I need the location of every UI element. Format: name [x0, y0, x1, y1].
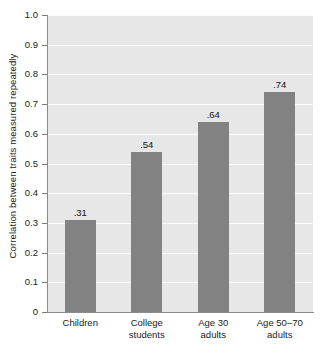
x-axis-category-label-line: students [110, 329, 184, 341]
x-axis-category-label: Age 30adults [176, 317, 250, 340]
y-axis-line [47, 15, 48, 313]
y-axis-tick-label: 0.3 [0, 218, 38, 228]
bar [65, 220, 96, 312]
x-axis-category-label-line: adults [176, 329, 250, 341]
y-axis-tick [42, 164, 47, 165]
y-axis-tick-label: 0.1 [0, 277, 38, 287]
y-axis-tick-label: 0.5 [0, 159, 38, 169]
bar-value-label: .74 [255, 80, 305, 90]
bar-chart-figure: Correlation between traits measured repe… [0, 0, 326, 355]
y-axis-tick-label: 0.2 [0, 248, 38, 258]
x-axis-category-label-line: Age 30 [176, 317, 250, 329]
y-axis-tick-label: 0.7 [0, 99, 38, 109]
y-axis-tick [42, 104, 47, 105]
y-axis-tick [42, 223, 47, 224]
x-axis-line [47, 312, 314, 313]
y-axis-tick [42, 15, 47, 16]
bar-value-label: .31 [55, 208, 105, 218]
y-axis-tick [42, 282, 47, 283]
bar-value-label: .54 [122, 140, 172, 150]
bar [198, 122, 229, 312]
y-axis-tick [42, 74, 47, 75]
y-axis-tick-label: 0.6 [0, 129, 38, 139]
x-axis-category-label-line: Children [43, 317, 117, 329]
y-axis-tick-label: 0.4 [0, 188, 38, 198]
x-axis-category-label: Age 50–70adults [243, 317, 317, 340]
y-axis-tick-label: 0 [0, 307, 38, 317]
y-axis-tick [42, 193, 47, 194]
bar [264, 92, 295, 312]
x-axis-category-label: Collegestudents [110, 317, 184, 340]
y-axis-tick [42, 134, 47, 135]
gridline [47, 45, 313, 46]
gridline [47, 74, 313, 75]
bar-value-label: .64 [188, 110, 238, 120]
x-axis-category-label-line: adults [243, 329, 317, 341]
y-axis-tick [42, 253, 47, 254]
y-axis-tick [42, 45, 47, 46]
y-axis-tick [42, 312, 47, 313]
x-axis-category-label-line: College [110, 317, 184, 329]
y-axis-tick-label: 0.9 [0, 40, 38, 50]
x-axis-category-label: Children [43, 317, 117, 329]
plot-area [47, 15, 313, 312]
bar [131, 152, 162, 312]
y-axis-tick-label: 0.8 [0, 69, 38, 79]
y-axis-tick-label: 1.0 [0, 10, 38, 20]
x-axis-category-label-line: Age 50–70 [243, 317, 317, 329]
gridline [47, 15, 313, 16]
